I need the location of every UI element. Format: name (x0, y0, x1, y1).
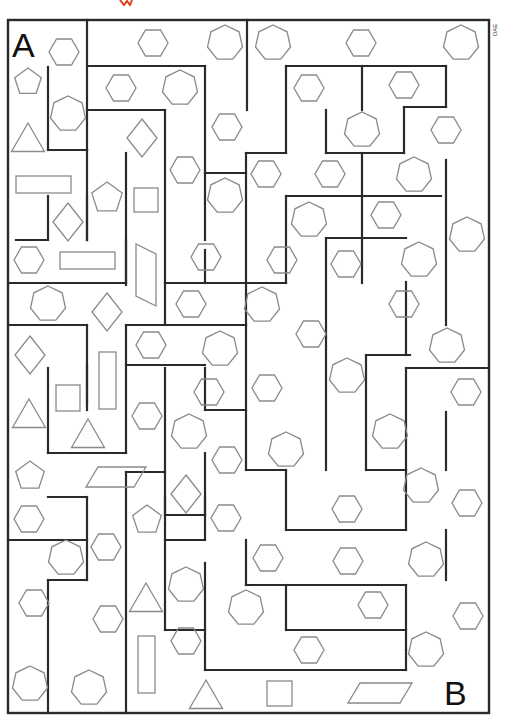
hexagon-shape (315, 161, 345, 187)
hexagon-shape (176, 291, 206, 317)
hexagon-shape (106, 75, 136, 101)
hexagon-shape (49, 39, 79, 65)
hexagon-shape (267, 247, 297, 273)
credit-text: DAE (492, 24, 498, 36)
heptagon-shape (444, 25, 479, 59)
pentagon-shape (92, 182, 122, 211)
heptagon-shape (256, 25, 291, 59)
para-shape (348, 683, 412, 703)
hexagon-shape (346, 30, 376, 56)
hexagon-shape (132, 403, 162, 429)
rect-shape (134, 188, 158, 212)
heptagon-shape (49, 540, 84, 574)
hexagon-shape (296, 321, 326, 347)
diamond-shape (171, 475, 201, 513)
heptagon-shape (203, 331, 238, 365)
heptagon-shape (51, 96, 86, 130)
hexagon-shape (138, 30, 168, 56)
triangle-shape (13, 399, 46, 428)
rect-shape (60, 252, 115, 269)
end-label-b: B (444, 676, 467, 710)
diamond-shape (127, 119, 157, 157)
heptagon-shape (269, 432, 304, 466)
hexagon-shape (294, 637, 324, 663)
hexagon-shape (331, 251, 361, 277)
diamond-shape (92, 293, 122, 331)
pentagon-shape (133, 505, 162, 532)
hexagon-shape (171, 628, 201, 654)
heptagon-shape (397, 157, 432, 191)
hexagon-shape (431, 117, 461, 143)
heptagon-shape (245, 287, 280, 321)
diamond-shape (15, 336, 45, 374)
rect-shape (99, 352, 116, 409)
hexagon-shape (453, 603, 483, 629)
heptagon-shape (172, 414, 207, 448)
heptagon-shape (292, 202, 327, 236)
heptagon-shape (345, 112, 380, 146)
triangle-shape (130, 583, 163, 612)
heptagon-shape (409, 542, 444, 576)
hexagon-shape (371, 202, 401, 228)
pentagon-shape (16, 461, 45, 488)
rect-shape (16, 176, 71, 193)
heptagon-shape (72, 670, 107, 704)
para-shape (86, 467, 146, 487)
heptagon-shape (169, 567, 204, 601)
heptagon-shape (31, 286, 66, 320)
heptagon-shape (208, 25, 243, 59)
heptagon-shape (373, 414, 408, 448)
triangle-shape (12, 123, 45, 152)
heptagon-shape (450, 217, 485, 251)
maze-board (0, 0, 506, 723)
triangle-shape (190, 680, 223, 709)
rect-shape (138, 636, 155, 693)
heptagon-shape (330, 358, 365, 392)
hexagon-shape (211, 505, 241, 531)
hexagon-shape (358, 592, 388, 618)
hexagon-shape (332, 496, 362, 522)
hexagon-shape (333, 548, 363, 574)
start-label-a: A (12, 28, 35, 62)
hexagon-shape (170, 157, 200, 183)
hexagon-shape (91, 534, 121, 560)
diamond-shape (53, 203, 83, 241)
pentagon-shape (15, 68, 42, 93)
hexagon-shape (252, 375, 282, 401)
hexagon-shape (389, 72, 419, 98)
hexagon-shape (19, 590, 49, 616)
rect-shape (56, 385, 80, 411)
hexagon-shape (253, 545, 283, 571)
hexagon-shape (14, 247, 44, 273)
hexagon-shape (251, 161, 281, 187)
heptagon-shape (208, 178, 243, 212)
hexagon-shape (136, 332, 166, 358)
para-shape (136, 244, 156, 306)
hexagon-shape (212, 447, 242, 473)
rect-shape (267, 681, 292, 706)
heptagon-shape (229, 590, 264, 624)
heptagon-shape (430, 328, 465, 362)
heptagon-shape (404, 468, 439, 502)
hexagon-shape (451, 379, 481, 405)
hexagon-shape (294, 75, 324, 101)
maze-shapes (12, 25, 485, 709)
hexagon-shape (212, 114, 242, 140)
hexagon-shape (14, 506, 44, 532)
triangle-shape (72, 419, 105, 448)
heptagon-shape (402, 242, 437, 276)
hexagon-shape (389, 291, 419, 317)
hexagon-shape (93, 606, 123, 632)
heptagon-shape (13, 666, 48, 700)
heptagon-shape (163, 70, 198, 104)
heptagon-shape (409, 632, 444, 666)
hexagon-shape (194, 379, 224, 405)
hexagon-shape (452, 490, 482, 516)
